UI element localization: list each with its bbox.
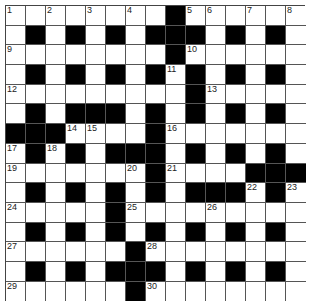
answer-cell[interactable] bbox=[246, 26, 266, 46]
answer-cell[interactable] bbox=[106, 124, 126, 144]
answer-cell[interactable] bbox=[6, 65, 26, 85]
answer-cell[interactable] bbox=[286, 242, 306, 262]
answer-cell[interactable] bbox=[246, 85, 266, 105]
answer-cell[interactable]: 16 bbox=[166, 124, 186, 144]
answer-cell[interactable] bbox=[206, 282, 226, 302]
answer-cell[interactable] bbox=[246, 144, 266, 164]
answer-cell[interactable] bbox=[246, 282, 266, 302]
answer-cell[interactable] bbox=[6, 26, 26, 46]
answer-cell[interactable] bbox=[46, 223, 66, 243]
answer-cell[interactable]: 18 bbox=[46, 144, 66, 164]
answer-cell[interactable] bbox=[26, 242, 46, 262]
answer-cell[interactable]: 7 bbox=[246, 6, 266, 26]
answer-cell[interactable] bbox=[206, 262, 226, 282]
answer-cell[interactable] bbox=[86, 282, 106, 302]
answer-cell[interactable] bbox=[126, 124, 146, 144]
answer-cell[interactable] bbox=[66, 164, 86, 184]
answer-cell[interactable] bbox=[126, 223, 146, 243]
answer-cell[interactable] bbox=[46, 65, 66, 85]
answer-cell[interactable] bbox=[26, 45, 46, 65]
answer-cell[interactable] bbox=[206, 65, 226, 85]
answer-cell[interactable] bbox=[266, 6, 286, 26]
answer-cell[interactable] bbox=[86, 203, 106, 223]
answer-cell[interactable] bbox=[166, 85, 186, 105]
answer-cell[interactable] bbox=[266, 203, 286, 223]
answer-cell[interactable] bbox=[266, 242, 286, 262]
answer-cell[interactable] bbox=[286, 104, 306, 124]
answer-cell[interactable]: 8 bbox=[286, 6, 306, 26]
answer-cell[interactable] bbox=[206, 45, 226, 65]
answer-cell[interactable]: 10 bbox=[186, 45, 206, 65]
answer-cell[interactable]: 20 bbox=[126, 164, 146, 184]
answer-cell[interactable] bbox=[126, 45, 146, 65]
answer-cell[interactable] bbox=[26, 203, 46, 223]
answer-cell[interactable]: 28 bbox=[146, 242, 166, 262]
answer-cell[interactable] bbox=[66, 242, 86, 262]
answer-cell[interactable] bbox=[246, 242, 266, 262]
answer-cell[interactable] bbox=[206, 144, 226, 164]
answer-cell[interactable] bbox=[186, 282, 206, 302]
answer-cell[interactable]: 26 bbox=[206, 203, 226, 223]
answer-cell[interactable]: 22 bbox=[246, 183, 266, 203]
answer-cell[interactable] bbox=[86, 262, 106, 282]
answer-cell[interactable] bbox=[286, 124, 306, 144]
answer-cell[interactable] bbox=[166, 203, 186, 223]
answer-cell[interactable] bbox=[206, 104, 226, 124]
answer-cell[interactable] bbox=[46, 26, 66, 46]
answer-cell[interactable] bbox=[86, 85, 106, 105]
answer-cell[interactable] bbox=[66, 203, 86, 223]
answer-cell[interactable]: 3 bbox=[86, 6, 106, 26]
answer-cell[interactable] bbox=[46, 203, 66, 223]
answer-cell[interactable] bbox=[86, 144, 106, 164]
answer-cell[interactable] bbox=[86, 45, 106, 65]
answer-cell[interactable] bbox=[66, 85, 86, 105]
answer-cell[interactable] bbox=[206, 223, 226, 243]
answer-cell[interactable] bbox=[126, 26, 146, 46]
answer-cell[interactable] bbox=[166, 262, 186, 282]
answer-cell[interactable] bbox=[266, 282, 286, 302]
answer-cell[interactable] bbox=[286, 85, 306, 105]
answer-cell[interactable] bbox=[166, 183, 186, 203]
answer-cell[interactable] bbox=[226, 85, 246, 105]
answer-cell[interactable] bbox=[166, 144, 186, 164]
answer-cell[interactable] bbox=[286, 45, 306, 65]
answer-cell[interactable] bbox=[106, 6, 126, 26]
answer-cell[interactable]: 1 bbox=[6, 6, 26, 26]
answer-cell[interactable]: 15 bbox=[86, 124, 106, 144]
answer-cell[interactable] bbox=[66, 282, 86, 302]
answer-cell[interactable] bbox=[266, 124, 286, 144]
answer-cell[interactable] bbox=[126, 85, 146, 105]
answer-cell[interactable] bbox=[206, 164, 226, 184]
answer-cell[interactable] bbox=[86, 183, 106, 203]
answer-cell[interactable] bbox=[266, 45, 286, 65]
answer-cell[interactable] bbox=[46, 45, 66, 65]
answer-cell[interactable] bbox=[6, 104, 26, 124]
answer-cell[interactable] bbox=[26, 85, 46, 105]
answer-cell[interactable] bbox=[66, 6, 86, 26]
answer-cell[interactable] bbox=[226, 6, 246, 26]
answer-cell[interactable] bbox=[186, 242, 206, 262]
answer-cell[interactable] bbox=[46, 242, 66, 262]
answer-cell[interactable] bbox=[286, 282, 306, 302]
answer-cell[interactable]: 5 bbox=[186, 6, 206, 26]
answer-cell[interactable] bbox=[186, 164, 206, 184]
answer-cell[interactable]: 12 bbox=[6, 85, 26, 105]
answer-cell[interactable] bbox=[86, 242, 106, 262]
answer-cell[interactable] bbox=[86, 65, 106, 85]
answer-cell[interactable] bbox=[66, 45, 86, 65]
answer-cell[interactable] bbox=[166, 282, 186, 302]
answer-cell[interactable] bbox=[86, 223, 106, 243]
answer-cell[interactable] bbox=[286, 223, 306, 243]
answer-cell[interactable] bbox=[106, 282, 126, 302]
answer-cell[interactable] bbox=[46, 85, 66, 105]
answer-cell[interactable]: 25 bbox=[126, 203, 146, 223]
answer-cell[interactable] bbox=[26, 282, 46, 302]
answer-cell[interactable]: 13 bbox=[206, 85, 226, 105]
answer-cell[interactable] bbox=[166, 223, 186, 243]
answer-cell[interactable] bbox=[146, 85, 166, 105]
answer-cell[interactable] bbox=[166, 104, 186, 124]
answer-cell[interactable] bbox=[226, 282, 246, 302]
answer-cell[interactable] bbox=[246, 124, 266, 144]
answer-cell[interactable] bbox=[206, 242, 226, 262]
answer-cell[interactable] bbox=[46, 104, 66, 124]
